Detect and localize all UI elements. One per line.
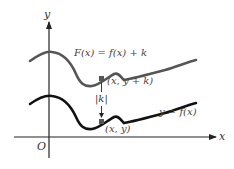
upper-curve-label: F(x) = f(x) + k (73, 47, 147, 58)
lower-point-marker (99, 119, 104, 124)
origin-label: O (37, 140, 46, 153)
y-axis-label: y (43, 8, 51, 21)
shift-label: |k| (95, 93, 108, 105)
vertical-shift-diagram: x y O |k| F(x) = f(x) + k (x, y + k) (x,… (0, 0, 234, 169)
x-axis-label: x (219, 130, 226, 143)
lower-curve-label: y = f(x) (158, 106, 197, 117)
lower-point-label: (x, y) (105, 123, 131, 134)
upper-point-marker (99, 76, 104, 81)
upper-point-label: (x, y + k) (107, 75, 153, 86)
